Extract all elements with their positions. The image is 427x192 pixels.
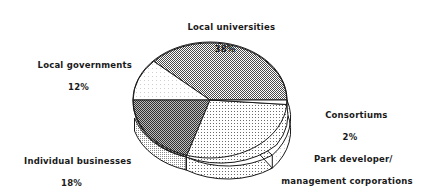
label-park-developer-name-line2: management corporations [272, 176, 422, 187]
label-local-universities-percent: 38% [160, 44, 290, 55]
label-individual-businesses-percent: 18% [4, 178, 139, 189]
label-local-universities-name: Local universities [187, 22, 275, 32]
label-park-developer: Park developer/ management corporations … [272, 143, 422, 192]
pie-chart-figure: Local universities 38% Local governments… [0, 0, 427, 192]
label-local-governments-percent: 12% [16, 82, 141, 93]
label-local-governments-name: Local governments [38, 60, 133, 70]
label-individual-businesses-name: Individual businesses [24, 156, 131, 166]
label-consortiums-percent: 2% [300, 132, 400, 143]
label-individual-businesses: Individual businesses 18% [4, 145, 139, 192]
label-local-universities: Local universities 38% [160, 11, 290, 77]
label-consortiums-name: Consortiums [325, 110, 387, 120]
label-local-governments: Local governments 12% [16, 49, 141, 115]
label-park-developer-name-line1: Park developer/ [314, 154, 393, 164]
